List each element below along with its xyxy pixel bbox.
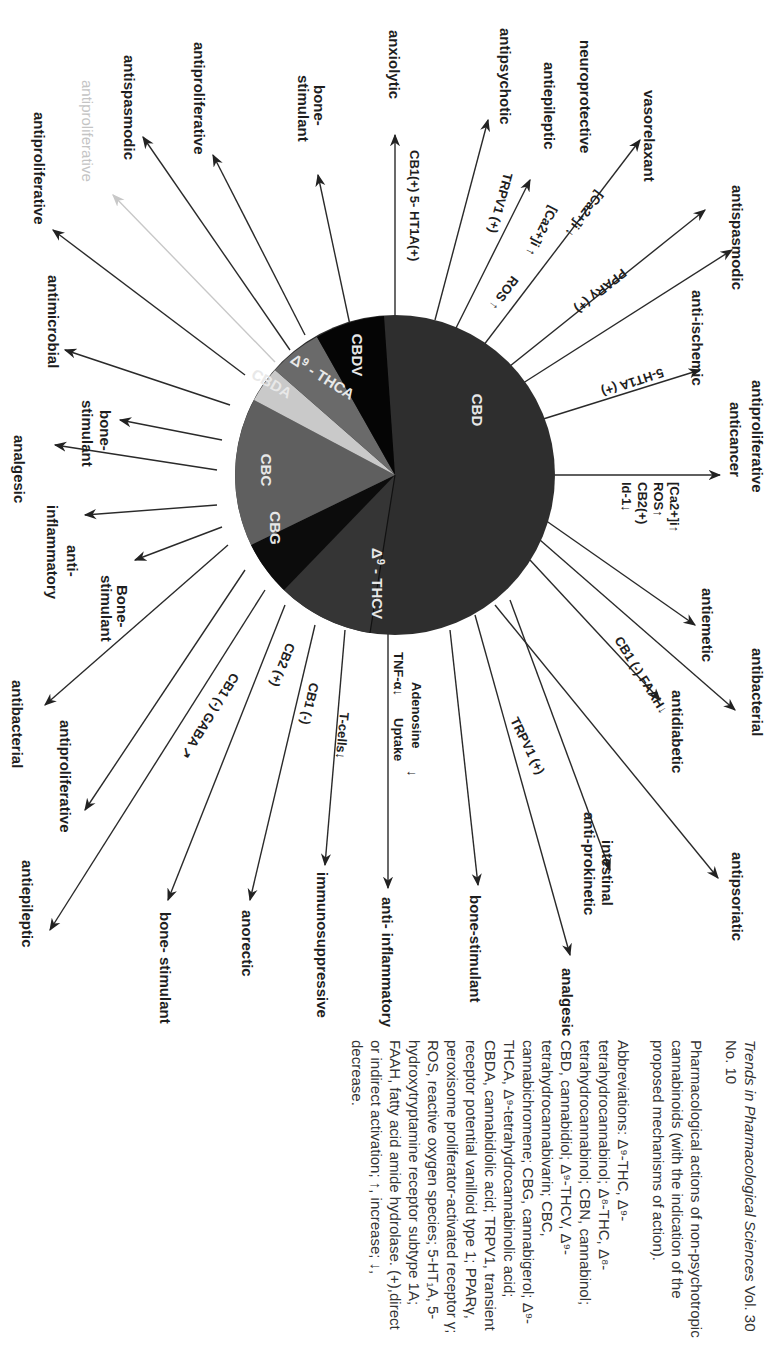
label-bone-stim-cbg-b: stimulant bbox=[98, 575, 115, 642]
label-anti-prokinetic: anti-prokinetic bbox=[581, 812, 598, 915]
label-antispasmodic-left: antispasmodic bbox=[121, 55, 138, 160]
slice-label-cbg: CBG bbox=[267, 511, 284, 544]
label-anxiolytic: anxiolytic bbox=[386, 30, 403, 99]
label-anti-inf-cbc-a: anti- bbox=[64, 545, 81, 577]
journal-name: Trends in Pharmacological Sciences bbox=[742, 1040, 759, 1282]
arrow-antiproliferative-thca bbox=[213, 155, 305, 335]
label-antimicrobial: antimicrobial bbox=[45, 275, 62, 368]
label-bone-stim-cbc-a: bone- bbox=[97, 410, 114, 451]
label-bone-stim-cbc-b: stimulant bbox=[79, 400, 96, 467]
mech-immuno: T-cells↓ bbox=[333, 712, 352, 760]
label-anticancer: anticancer bbox=[727, 402, 744, 477]
slice-label-thcv: Δ9 - THCV bbox=[369, 548, 387, 619]
journal-citation: Trends in Pharmacological Sciences Vol. … bbox=[722, 1040, 760, 1340]
label-antiproliferative-cbc: antiproliferative bbox=[31, 112, 48, 225]
slice-label-cbd: CBD bbox=[469, 394, 486, 427]
rotated-figure: CBD Δ9 - THCV CBG CBC CBDA Δ9 - THCA CBD… bbox=[0, 0, 772, 1358]
label-antibacterial-right: antibacterial bbox=[749, 648, 766, 736]
arrow-bone-stimulant-cbg bbox=[135, 527, 222, 560]
mech-anxiolytic: CB1(+) 5- HT1A(+) bbox=[407, 150, 422, 261]
label-analgesic-left: analgesic bbox=[11, 435, 28, 503]
arrow-bone-stimulant-cbc bbox=[120, 420, 222, 440]
slice-label-cbdv: CBDV bbox=[349, 334, 366, 377]
mech-antipsychotic: TRPV1 (+) bbox=[485, 171, 515, 235]
figure-caption: Trends in Pharmacological Sciences Vol. … bbox=[348, 1040, 760, 1340]
label-neuroprotective: neuroprotective bbox=[577, 40, 594, 153]
arrow-analgesic-right bbox=[475, 615, 570, 955]
mech-cancer-3: CB2(+) bbox=[635, 482, 650, 524]
mech-neuro-b: ROS ↑ bbox=[487, 273, 522, 313]
label-antiproliferative-thca: antiproliferative bbox=[191, 42, 208, 155]
label-bone-stim-top-a: bone- bbox=[311, 85, 328, 126]
mech-antiinf-a: TNF-α↓ bbox=[391, 652, 406, 696]
mech-cancer-4: Id-1↓ bbox=[619, 482, 634, 512]
label-bone-stimulant-cb2: bone- stimulant bbox=[157, 912, 174, 1024]
mech-cancer-2: ROS↑ bbox=[651, 482, 666, 517]
label-bone-stim-cbg-a: Bone- bbox=[114, 585, 131, 628]
label-antiepileptic-top: antiepileptic bbox=[541, 62, 558, 150]
pie-chart: CBD Δ9 - THCV CBG CBC CBDA Δ9 - THCA CBD… bbox=[235, 315, 555, 635]
arrow-antiproliferative-cbc bbox=[53, 230, 245, 375]
label-bone-stimulant-bottom: bone-stimulant bbox=[467, 895, 484, 1003]
mech-analgesic-right: TRPV1 (+) bbox=[507, 715, 548, 777]
mech-cancer-1: [Ca2+]i↑ bbox=[667, 482, 682, 532]
mech-antiinf-c: Adenosine bbox=[409, 682, 424, 748]
mech-antiepileptic-top: [Ca2+]i ↑ bbox=[523, 204, 561, 259]
label-bone-stim-top-b: stimulant bbox=[295, 75, 312, 142]
arrow-antispasmodic-left bbox=[143, 137, 290, 350]
caption-description: Pharmacological actions of non-psychotro… bbox=[649, 1040, 706, 1340]
arrow-bone-stimulant-bottom bbox=[450, 630, 478, 885]
arrow-antipsychotic bbox=[435, 120, 488, 320]
mech-anorectic: CB1 (-) bbox=[297, 681, 321, 726]
mech-antiepileptic-bottom: CB1 (-) GABA ↗ bbox=[177, 670, 242, 762]
label-antiproliferative-faint: antiproliferative bbox=[79, 80, 96, 182]
arrow-bone-stimulant-top bbox=[318, 175, 350, 325]
label-vasorelaxant: vasorelaxant bbox=[641, 90, 658, 182]
caption-abbreviations: Abbreviations: Δ⁹-THC, Δ⁹-tetrahydrocann… bbox=[348, 1040, 633, 1340]
label-antibacterial-left: antibacterial bbox=[9, 680, 26, 768]
label-anorectic: anorectic bbox=[239, 910, 256, 977]
mech-bone-cb2: CB2 (+) bbox=[267, 641, 298, 689]
mech-neuro-a: [Ca2+]i ↓ bbox=[562, 188, 606, 240]
label-anti-ischemic: anti-ischemic bbox=[689, 290, 706, 386]
label-analgesic-right: analgesic bbox=[559, 968, 576, 1036]
label-antiproliferative-right: antiproliferative bbox=[749, 380, 766, 493]
mech-anti-ischemic: 5-HT1A (+) bbox=[599, 365, 665, 399]
label-antispasmodic-right: antispasmodic bbox=[729, 185, 746, 290]
label-antiemetic: antiemetic bbox=[699, 588, 716, 662]
mech-vasorelaxant: PPARγ (+) bbox=[572, 266, 630, 317]
label-anti-inf-cbc-b: inflammatory bbox=[44, 505, 61, 600]
label-antiepileptic-bottom: antiepileptic bbox=[19, 860, 36, 948]
mech-antiinf-b: Uptake bbox=[391, 718, 406, 761]
mech-antiinf-d: ↓ bbox=[405, 770, 420, 777]
label-antipsoriatic: antipsoriatic bbox=[729, 852, 746, 941]
label-anti-inflammatory-bottom: anti- inflammatory bbox=[379, 897, 396, 1028]
arrow-antiepileptic-bottom bbox=[50, 590, 265, 930]
label-antidiabetic: antidiabetic bbox=[669, 690, 686, 773]
label-antipsychotic: antipsychotic bbox=[497, 28, 514, 125]
arrow-antimicrobial bbox=[65, 350, 230, 405]
slice-label-cbc: CBC bbox=[258, 454, 275, 487]
label-intestinal: intestinal bbox=[599, 840, 616, 906]
arrow-anti-inflammatory-cbc bbox=[85, 505, 217, 515]
label-immunosuppressive: immunosuppressive bbox=[314, 872, 331, 1018]
label-antiproliferative-cbg: antiproliferative bbox=[57, 720, 74, 833]
